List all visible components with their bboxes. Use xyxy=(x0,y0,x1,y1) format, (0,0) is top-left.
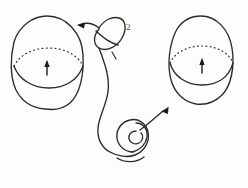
twist-loop-tail-stub xyxy=(112,52,116,59)
twist-multiplicity-label: 2 xyxy=(126,23,131,32)
arrowhead-to-right-sphere xyxy=(162,107,172,116)
bottom-trefoil-knot-group xyxy=(110,111,163,162)
knot-small-loop xyxy=(129,131,143,144)
diagram-canvas: 2 xyxy=(0,0,248,188)
descending-strand xyxy=(98,48,110,152)
twist-loop-over-strand xyxy=(96,31,118,45)
left-sphere-equator-dashed xyxy=(14,48,83,66)
knot-lower-tail xyxy=(117,157,144,162)
right-sphere-outline xyxy=(169,16,233,104)
right-sphere-center-arrow xyxy=(199,58,204,73)
left-sphere-group xyxy=(11,16,83,109)
topology-diagram xyxy=(0,0,248,188)
right-sphere-group xyxy=(169,16,233,104)
knot-exit-strand xyxy=(140,111,163,130)
arrowhead-to-left-sphere xyxy=(77,23,85,29)
left-sphere-equator-front xyxy=(14,66,83,88)
left-sphere-center-arrow xyxy=(44,60,49,75)
